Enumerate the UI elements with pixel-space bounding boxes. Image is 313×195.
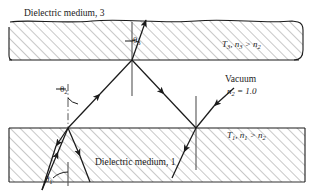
label-top-region-properties: T3, n3 > n2 [222, 40, 261, 51]
label-vacuum: Vacuum [225, 75, 256, 85]
label-theta1: θ1 [45, 175, 53, 186]
label-vacuum-index: n2 = 1.0 [227, 87, 257, 98]
n2-subscript-top: 2 [258, 43, 261, 50]
theta2-subscript: 2 [64, 88, 67, 95]
label-bottom-region-properties: T1, n1 > n2 [227, 131, 266, 142]
n1-relation: > [247, 130, 258, 140]
n2-subscript-bottom: 2 [263, 134, 266, 141]
label-dielectric-medium-1: Dielectric medium, 1 [95, 158, 175, 168]
label-theta2: θ2 [60, 85, 68, 96]
theta1-subscript: 1 [49, 178, 52, 185]
arc-theta2 [68, 98, 78, 104]
theta3-subscript: 3 [137, 39, 140, 46]
optics-ray-diagram: Dielectric medium, 3 Dielectric medium, … [0, 0, 313, 195]
label-dielectric-medium-3: Dielectric medium, 3 [24, 9, 104, 19]
n2-value: = 1.0 [235, 86, 257, 96]
n3-relation: > [242, 39, 253, 49]
label-theta3: θ3 [133, 36, 141, 47]
